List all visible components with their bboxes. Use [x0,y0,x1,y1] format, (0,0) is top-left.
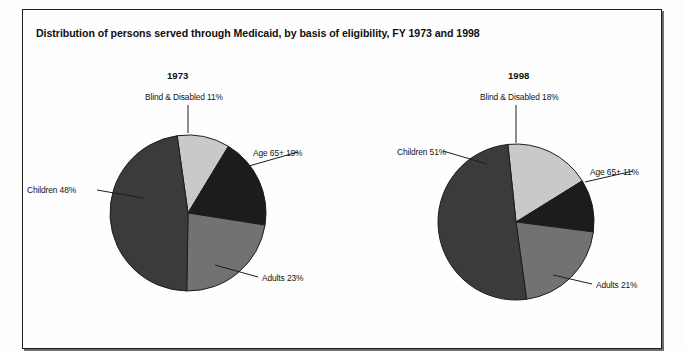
label-1973-adults: Adults 23% [262,273,303,283]
pie-slice-adults [187,213,265,291]
label-1973-age65: Age 65+ 19% [253,148,302,158]
label-1973-children: Children 48% [27,185,76,195]
pie-chart-1973 [110,135,266,291]
pie-slice-adults [516,222,593,299]
label-1998-age65: Age 65+ 11% [590,167,639,177]
pie-slice-children [110,136,188,291]
label-1998-blind-disabled: Blind & Disabled 18% [480,92,559,102]
label-1998-children: Children 51% [397,147,446,157]
pie-chart-1998 [438,144,594,300]
label-1998-adults: Adults 21% [596,280,637,290]
label-1973-blind-disabled: Blind & Disabled 11% [145,92,223,102]
